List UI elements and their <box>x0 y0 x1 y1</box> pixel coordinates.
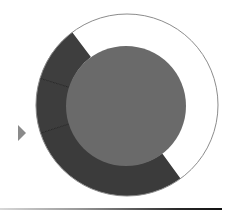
pointer-triangle-icon <box>18 125 26 141</box>
donut-diagram-canvas <box>0 0 234 212</box>
center-disc <box>66 46 186 166</box>
donut-chart <box>0 0 234 212</box>
bottom-rule-line <box>0 208 222 210</box>
